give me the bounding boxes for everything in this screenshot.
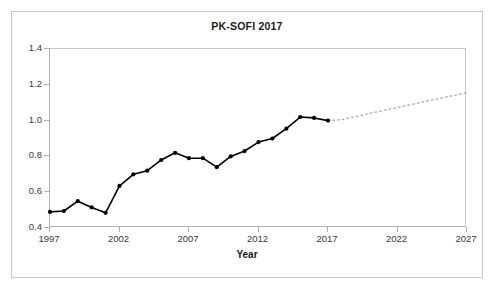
data-point-marker — [117, 184, 121, 188]
data-point-marker — [201, 156, 205, 160]
forecast-series-line — [328, 93, 467, 121]
data-point-marker — [173, 151, 177, 155]
series-svg — [50, 49, 467, 228]
data-point-marker — [187, 156, 191, 160]
data-point-marker — [284, 127, 288, 131]
data-point-marker — [326, 119, 330, 123]
x-axis-title: Year — [0, 249, 494, 260]
plot-area — [49, 48, 466, 227]
data-point-marker — [104, 211, 108, 215]
y-tick-label: 1.4 — [8, 42, 42, 53]
chart-title: PK-SOFI 2017 — [0, 20, 494, 32]
data-point-marker — [90, 205, 94, 209]
data-point-marker — [76, 199, 80, 203]
data-point-marker — [159, 158, 163, 162]
data-point-marker — [270, 136, 274, 140]
x-tick-label: 2002 — [95, 233, 143, 244]
data-point-marker — [131, 172, 135, 176]
x-tick-label: 2012 — [234, 233, 282, 244]
data-point-marker — [215, 165, 219, 169]
x-tick-label: 2007 — [164, 233, 212, 244]
y-tick-label: 0.4 — [8, 221, 42, 232]
observed-series-line — [50, 117, 328, 213]
data-point-marker — [62, 209, 66, 213]
data-point-marker — [256, 140, 260, 144]
data-point-marker — [229, 154, 233, 158]
data-point-marker — [48, 210, 52, 214]
y-tick-label: 0.6 — [8, 185, 42, 196]
x-tick-label: 1997 — [25, 233, 73, 244]
y-tick-label: 1.0 — [8, 114, 42, 125]
y-tick-label: 0.8 — [8, 149, 42, 160]
observed-series-markers — [48, 115, 330, 215]
data-point-marker — [312, 116, 316, 120]
y-tick-label: 1.2 — [8, 78, 42, 89]
x-tick-label: 2027 — [442, 233, 490, 244]
x-tick-label: 2017 — [303, 233, 351, 244]
data-point-marker — [298, 115, 302, 119]
x-tick-label: 2022 — [373, 233, 421, 244]
data-point-marker — [145, 169, 149, 173]
data-point-marker — [243, 149, 247, 153]
chart-screenshot: PK-SOFI 2017 0.40.60.81.01.21.4 19972002… — [0, 0, 494, 290]
